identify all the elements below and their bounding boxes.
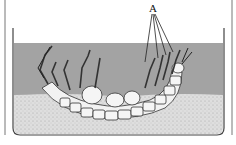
diagram (0, 0, 236, 145)
label-A: A (149, 2, 157, 14)
